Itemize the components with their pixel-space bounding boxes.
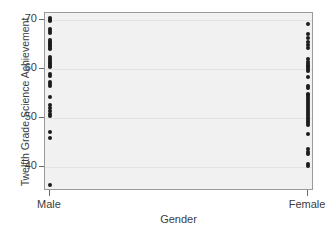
gridline bbox=[45, 118, 312, 119]
data-point bbox=[48, 136, 52, 140]
gridline bbox=[45, 167, 312, 168]
data-point bbox=[48, 19, 52, 23]
data-point bbox=[306, 132, 310, 136]
x-tick-label: Female bbox=[277, 198, 329, 210]
data-point bbox=[306, 86, 310, 90]
gridline bbox=[45, 20, 312, 21]
data-point bbox=[48, 84, 52, 88]
x-tick-mark bbox=[307, 190, 308, 196]
data-point bbox=[306, 69, 310, 73]
y-tick-mark bbox=[39, 166, 44, 167]
data-point bbox=[48, 114, 52, 118]
data-point bbox=[306, 22, 310, 26]
x-tick-mark bbox=[49, 190, 50, 196]
y-tick-mark bbox=[39, 19, 44, 20]
data-point bbox=[48, 74, 52, 78]
data-point bbox=[306, 123, 310, 127]
x-tick-label: Male bbox=[19, 198, 79, 210]
data-point bbox=[306, 75, 310, 79]
gridline bbox=[45, 69, 312, 70]
y-tick-mark bbox=[39, 68, 44, 69]
data-point bbox=[48, 95, 52, 99]
scatter-chart: 40506070 Twelfth Grade Science Achieveme… bbox=[0, 0, 329, 230]
data-point bbox=[306, 32, 310, 36]
y-tick-mark bbox=[39, 117, 44, 118]
plot-panel bbox=[44, 12, 313, 190]
y-axis-title: Twelfth Grade Science Achievement bbox=[19, 7, 31, 197]
x-axis-title: Gender bbox=[44, 213, 313, 225]
data-point bbox=[48, 183, 52, 187]
data-point bbox=[306, 46, 310, 50]
data-point bbox=[306, 152, 310, 156]
data-point bbox=[48, 130, 52, 134]
data-point bbox=[48, 47, 52, 51]
data-point bbox=[48, 31, 52, 35]
